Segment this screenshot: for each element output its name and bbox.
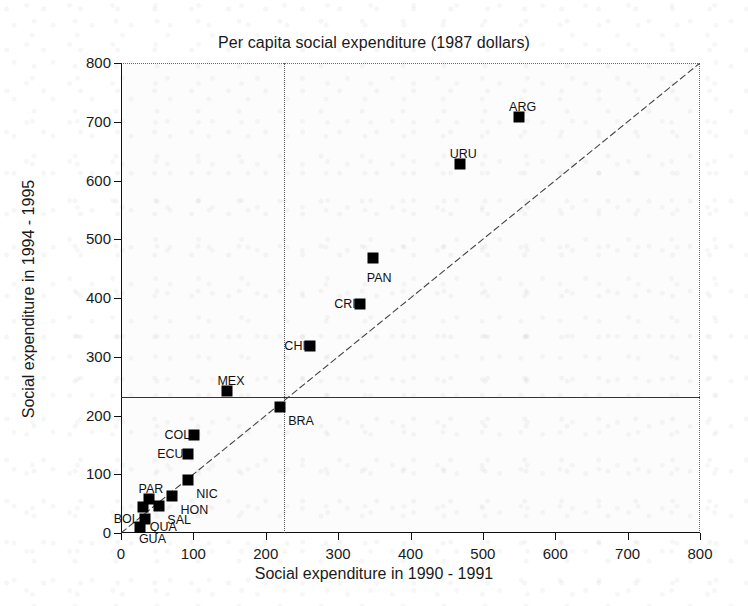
data-point-qua [134,522,145,533]
y-tick-label-200: 200 [59,408,111,423]
plot-area: ARGURUPANCRICHIMEXBRACOLECUNICHONPARBOLS… [121,63,700,533]
x-tick-label-400: 400 [381,546,441,561]
data-point-sal [154,500,165,511]
y-tick-0 [114,533,121,534]
plot-background [121,63,700,533]
data-point-chi [304,341,315,352]
y-tick-200 [114,416,121,417]
point-label-par: PAR [139,483,164,496]
x-tick-label-0: 0 [91,546,151,561]
x-tick-500 [483,533,484,540]
x-tick-0 [121,533,122,540]
point-label-pan: PAN [367,272,392,285]
x-tick-200 [266,533,267,540]
point-label-chi: CHI [278,340,306,353]
y-axis-line [121,63,122,533]
y-tick-300 [114,357,121,358]
point-label-bra: BRA [288,415,314,428]
chart-figure: Per capita social expenditure (1987 doll… [0,0,748,606]
x-tick-600 [555,533,556,540]
x-tick-700 [628,533,629,540]
x-tick-label-100: 100 [163,546,223,561]
y-axis-title: Social expenditure in 1994 - 1995 [20,64,38,534]
y-tick-500 [114,239,121,240]
x-tick-label-800: 800 [670,546,730,561]
point-label-col: COL [162,429,190,442]
reference-line-mean-vertical [284,63,285,533]
x-axis-title: Social expenditure in 1990 - 1991 [0,565,748,583]
y-tick-800 [114,63,121,64]
x-tick-400 [411,533,412,540]
x-tick-label-700: 700 [598,546,658,561]
y-tick-400 [114,298,121,299]
y-tick-label-100: 100 [59,466,111,481]
point-label-arg: ARG [509,101,536,114]
chart-title: Per capita social expenditure (1987 doll… [0,34,748,52]
reference-line-mean-horizontal [121,397,700,398]
y-tick-label-0: 0 [59,525,111,540]
y-tick-700 [114,122,121,123]
data-point-col [189,430,200,441]
point-label-qua: QUA [150,521,177,534]
x-tick-label-300: 300 [308,546,368,561]
x-tick-label-600: 600 [525,546,585,561]
y-tick-label-600: 600 [59,173,111,188]
data-point-bra [275,402,286,413]
data-point-ecu [182,449,193,460]
plot-top-border [121,63,700,64]
point-label-ecu: ECU [156,448,184,461]
y-tick-label-700: 700 [59,114,111,129]
data-point-pan [367,253,378,264]
plot-right-border [699,63,700,533]
y-tick-100 [114,474,121,475]
x-tick-800 [700,533,701,540]
point-label-cri: CRI [328,298,356,311]
data-point-cri [354,299,365,310]
data-point-nic [183,474,194,485]
y-tick-label-300: 300 [59,349,111,364]
x-tick-300 [338,533,339,540]
y-tick-600 [114,181,121,182]
x-tick-100 [193,533,194,540]
x-tick-label-500: 500 [453,546,513,561]
x-tick-label-200: 200 [236,546,296,561]
point-label-mex: MEX [217,375,244,388]
point-label-uru: URU [450,148,477,161]
point-label-nic: NIC [196,488,218,501]
y-tick-label-800: 800 [59,55,111,70]
point-label-gua: GUA [139,533,166,546]
y-tick-label-500: 500 [59,231,111,246]
y-tick-label-400: 400 [59,290,111,305]
data-point-bol [137,501,148,512]
data-point-hon [167,490,178,501]
